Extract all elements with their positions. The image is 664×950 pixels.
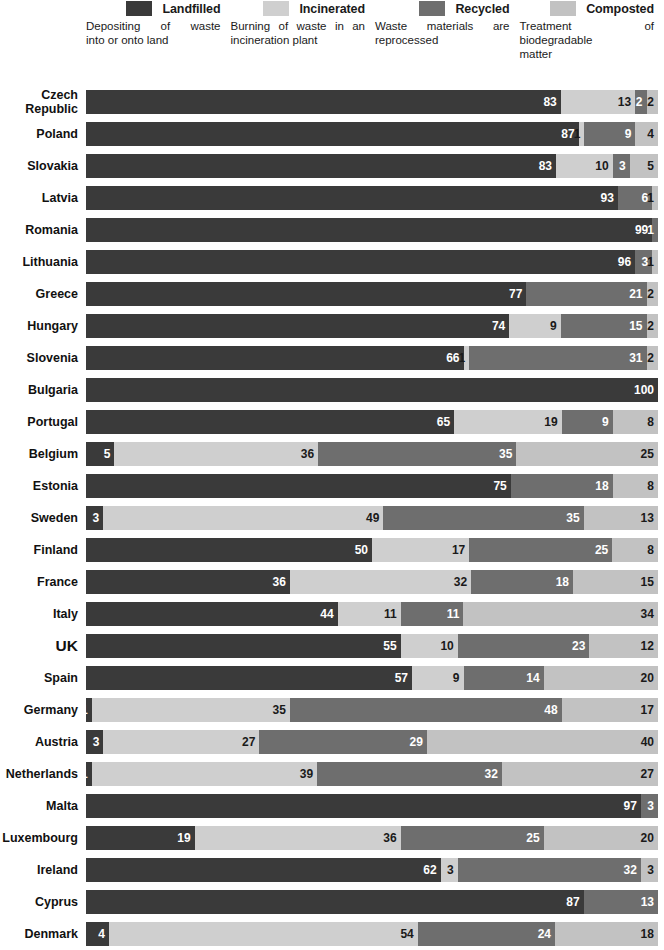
bar-segment-landfilled: 55 xyxy=(86,634,401,658)
row-label-uk: UK xyxy=(0,630,78,662)
stacked-bar: 100 xyxy=(86,378,658,402)
bar-segment-composted: 13 xyxy=(584,506,658,530)
legend-description-landfilled: Depositing of wasteinto or onto land xyxy=(86,19,221,47)
legend-label-incinerated: Incinerated xyxy=(299,2,365,16)
bar-segment-value: 15 xyxy=(641,576,658,588)
bar-segment-composted: 2 xyxy=(647,314,658,338)
bar-segment-value: 9 xyxy=(602,416,613,428)
stacked-bar: 36321815 xyxy=(86,570,658,594)
bar-segment-value: 54 xyxy=(400,928,417,940)
bar-segment-value: 44 xyxy=(320,608,337,620)
bar-segment-landfilled: 83 xyxy=(86,154,556,178)
row-label-slovenia: Slovenia xyxy=(0,342,78,374)
bar-segment-value: 20 xyxy=(641,672,658,684)
legend-item-recycled: RecycledWaste materials arereprocessed xyxy=(375,0,520,86)
bar-segment-value: 25 xyxy=(595,544,612,556)
bar-segment-incinerated: 49 xyxy=(103,506,383,530)
bar-segment-value: 3 xyxy=(92,512,103,524)
bar-segment-incinerated: 35 xyxy=(92,698,290,722)
bar-segment-recycled: 9 xyxy=(562,410,613,434)
bar-segment-value: 35 xyxy=(499,448,516,460)
bar-segment-recycled: 18 xyxy=(471,570,573,594)
bar-segment-value: 74 xyxy=(492,320,509,332)
bar-segment-value: 35 xyxy=(273,704,290,716)
bar-segment-incinerated: 3 xyxy=(441,858,458,882)
row-label-belgium: Belgium xyxy=(0,438,78,470)
chart-row: Poland87194 xyxy=(0,118,664,150)
bar-segment-landfilled: 74 xyxy=(86,314,509,338)
legend-item-landfilled: LandfilledDepositing of wasteinto or ont… xyxy=(86,0,231,86)
bar-segment-composted: 27 xyxy=(502,762,658,786)
bar-segment-composted: 34 xyxy=(463,602,657,626)
stacked-bar: 5017258 xyxy=(86,538,658,562)
bar-segment-landfilled: 77 xyxy=(86,282,526,306)
bar-segment-value: 40 xyxy=(641,736,658,748)
bar-segment-value: 17 xyxy=(452,544,469,556)
stacked-bar: 749152 xyxy=(86,314,658,338)
bar-segment-landfilled: 75 xyxy=(86,474,511,498)
bar-segment-incinerated: 9 xyxy=(412,666,463,690)
bar-segment-value: 8 xyxy=(647,416,658,428)
chart-row: Lithuania9631 xyxy=(0,246,664,278)
chart-row: Greece77212 xyxy=(0,278,664,310)
row-label-latvia: Latvia xyxy=(0,182,78,214)
chart-row: Italy44111134 xyxy=(0,598,664,630)
bar-segment-value: 32 xyxy=(454,576,471,588)
stacked-bar: 77212 xyxy=(86,282,658,306)
row-label-malta: Malta xyxy=(0,790,78,822)
stacked-bar: 87194 xyxy=(86,122,658,146)
bar-segment-value: 29 xyxy=(410,736,427,748)
bar-segment-value: 9 xyxy=(625,128,636,140)
bar-segment-value: 1 xyxy=(574,128,585,140)
legend-description-line: Treatment of xyxy=(520,19,655,33)
chart-row: Luxembourg19362520 xyxy=(0,822,664,854)
chart-row: Malta973 xyxy=(0,790,664,822)
row-label-sweden: Sweden xyxy=(0,502,78,534)
bar-segment-value: 11 xyxy=(447,608,464,620)
bar-segment-value: 4 xyxy=(647,128,658,140)
bar-segment-incinerated: 11 xyxy=(338,602,401,626)
bar-segment-composted: 12 xyxy=(589,634,658,658)
chart-row: Cyprus8713 xyxy=(0,886,664,918)
row-label-hungary: Hungary xyxy=(0,310,78,342)
bar-segment-value: 3 xyxy=(93,736,104,748)
bar-segment-value: 39 xyxy=(300,768,317,780)
bar-segment-value: 24 xyxy=(538,928,555,940)
bar-segment-value: 23 xyxy=(572,640,589,652)
bar-segment-recycled: 32 xyxy=(458,858,641,882)
bar-segment-landfilled: 100 xyxy=(86,378,658,402)
row-label-france: France xyxy=(0,566,78,598)
legend-swatch-composted-icon xyxy=(550,1,576,16)
stacked-bar: 973 xyxy=(86,794,658,818)
bar-segment-value: 32 xyxy=(485,768,502,780)
chart-row: UK55102312 xyxy=(0,630,664,662)
chart-row: Latvia9361 xyxy=(0,182,664,214)
bar-segment-value: 19 xyxy=(177,832,194,844)
bar-segment-recycled: 32 xyxy=(317,762,502,786)
bar-segment-incinerated: 39 xyxy=(92,762,317,786)
bar-segment-incinerated: 27 xyxy=(103,730,259,754)
bar-segment-recycled: 9 xyxy=(584,122,635,146)
bar-segment-value: 9 xyxy=(550,320,561,332)
bar-segment-value: 1 xyxy=(459,352,470,364)
bar-segment-recycled: 11 xyxy=(401,602,464,626)
bar-segment-value: 5 xyxy=(647,160,658,172)
chart-legend: LandfilledDepositing of wasteinto or ont… xyxy=(0,0,664,86)
legend-header-composted: Composted xyxy=(520,0,655,17)
bar-segment-incinerated: 32 xyxy=(290,570,471,594)
stacked-bar: 44111134 xyxy=(86,602,658,626)
stacked-bar: 831322 xyxy=(86,90,658,114)
legend-description-line: Burning of waste in an xyxy=(231,19,366,33)
bar-segment-landfilled: 87 xyxy=(86,122,579,146)
chart-row: Sweden3493513 xyxy=(0,502,664,534)
bar-segment-value: 32 xyxy=(623,864,640,876)
bar-segment-value: 100 xyxy=(634,384,658,396)
row-label-luxembourg: Luxembourg xyxy=(0,822,78,854)
bar-segment-landfilled: 5 xyxy=(86,442,114,466)
bar-segment-value: 13 xyxy=(641,896,658,908)
row-label-italy: Italy xyxy=(0,598,78,630)
bar-segment-landfilled: 66 xyxy=(86,346,464,370)
bar-segment-value: 12 xyxy=(641,640,658,652)
bar-segment-incinerated: 19 xyxy=(454,410,562,434)
bar-segment-composted: 8 xyxy=(613,474,658,498)
